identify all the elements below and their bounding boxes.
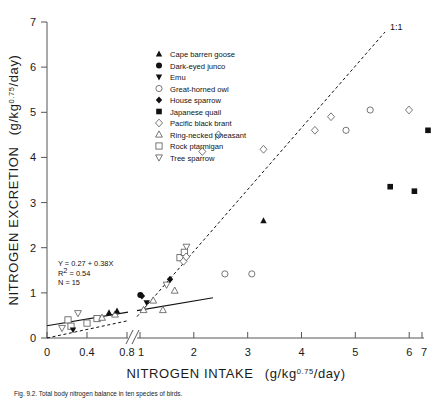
series-cape-barren-goose xyxy=(106,217,267,315)
marker-diamond-open-icon xyxy=(156,119,163,127)
x-axis-title-main: NITROGEN INTAKE xyxy=(126,366,253,381)
legend-item-dark-eyed-junco: Dark-eyed junco xyxy=(156,62,225,71)
x-tick-6: 6 xyxy=(406,346,412,358)
marker-diamond-filled-icon xyxy=(156,96,162,103)
x-tick-0p8: 0.8 xyxy=(119,346,134,358)
legend-item-house-sparrow: House sparrow xyxy=(156,96,222,105)
marker-square-open-icon xyxy=(156,143,162,149)
series-emu xyxy=(70,300,150,333)
y-axis-title: NITROGEN EXCRETION (g/kg0.75/day) xyxy=(6,55,21,306)
y-tick-5: 5 xyxy=(30,106,36,118)
x-tick-3: 3 xyxy=(245,346,251,358)
legend-label-9: Tree sparrow xyxy=(170,154,215,163)
marker-triangle-up-open-icon xyxy=(156,131,163,137)
x-axis-units-post: /day) xyxy=(314,366,346,381)
x-tick-2: 2 xyxy=(191,346,197,358)
figure-container: 0 1 2 3 4 5 6 7 0 0.4 0.8 1 xyxy=(0,0,446,400)
y-axis-units-pre: (g/kg xyxy=(6,103,21,135)
legend-item-cape-barren-goose: Cape barren goose xyxy=(156,50,235,59)
marker-square-filled-icon xyxy=(156,109,162,115)
legend-item-rock-ptarmigan: Rock ptarmigan xyxy=(156,142,223,151)
marker-triangle-down-open-icon xyxy=(156,155,163,161)
scatter-plot: 0 1 2 3 4 5 6 7 0 0.4 0.8 1 xyxy=(0,0,446,400)
x-axis-units-exponent: 0.75 xyxy=(297,367,314,376)
marker-circle-filled-icon xyxy=(156,63,162,69)
regression-n: N = 15 xyxy=(58,278,80,287)
x-tick-4: 4 xyxy=(298,346,304,358)
x-tick-5: 5 xyxy=(352,346,358,358)
regression-annotation: Y = 0.27 + 0.38X R2 = 0.54 N = 15 xyxy=(58,259,113,287)
regression-line xyxy=(47,298,213,326)
legend-label-0: Cape barren goose xyxy=(170,50,235,59)
legend-label-5: Japanese quail xyxy=(170,108,221,117)
x-axis-title: NITROGEN INTAKE (g/kg0.75/day) xyxy=(126,366,345,381)
legend: Cape barren goose Dark-eyed junco Emu Gr… xyxy=(156,50,247,163)
x-tick-0: 0 xyxy=(44,346,50,358)
legend-label-1: Dark-eyed junco xyxy=(170,62,225,71)
y-tick-1: 1 xyxy=(30,287,36,299)
x-tick-7: 7 xyxy=(421,346,427,358)
one-to-one-line xyxy=(47,32,385,338)
axis-break-marks xyxy=(126,330,139,344)
series-house-sparrow xyxy=(139,276,174,300)
y-axis-units-exponent: 0.75 xyxy=(7,86,16,103)
y-tick-3: 3 xyxy=(30,197,36,209)
x-axis-units-pre: (g/kg xyxy=(265,366,297,381)
legend-label-2: Emu xyxy=(170,73,186,82)
legend-label-6: Pacific black brant xyxy=(170,119,233,128)
y-axis: 0 1 2 3 4 5 6 7 xyxy=(30,16,47,344)
legend-label-7: Ring-necked pheasant xyxy=(170,131,247,140)
y-tick-4: 4 xyxy=(30,151,36,163)
figure-caption: Fig. 9.2. Total body nitrogen balance in… xyxy=(14,390,182,398)
one-to-one-label: 1:1 xyxy=(390,22,403,32)
y-tick-0: 0 xyxy=(30,332,36,344)
marker-circle-open-icon xyxy=(156,85,162,91)
y-tick-2: 2 xyxy=(30,242,36,254)
legend-label-3: Great-horned owl xyxy=(170,85,229,94)
series-tree-sparrow xyxy=(59,244,190,331)
legend-label-8: Rock ptarmigan xyxy=(170,142,223,151)
legend-item-emu: Emu xyxy=(156,73,186,82)
series-japanese-quail xyxy=(387,128,430,195)
y-tick-6: 6 xyxy=(30,61,36,73)
legend-item-tree-sparrow: Tree sparrow xyxy=(156,154,215,163)
legend-item-ring-necked-pheasant: Ring-necked pheasant xyxy=(156,131,247,140)
marker-triangle-down-filled-icon xyxy=(156,75,162,81)
svg-text:NITROGEN EXCRETION (g/kg: NITROGEN EXCRETION (g/kg0.75/day) xyxy=(6,55,21,306)
x-tick-1: 1 xyxy=(138,346,144,358)
legend-label-4: House sparrow xyxy=(170,96,222,105)
y-axis-units-post: /day) xyxy=(6,55,21,87)
y-axis-title-main: NITROGEN EXCRETION xyxy=(6,147,21,306)
x-axis: 0 0.4 0.8 1 2 3 4 5 6 7 xyxy=(44,330,427,358)
marker-triangle-up-filled-icon xyxy=(156,51,162,57)
legend-item-japanese-quail: Japanese quail xyxy=(156,108,221,117)
x-tick-0p4: 0.4 xyxy=(79,346,94,358)
y-tick-7: 7 xyxy=(30,16,36,28)
legend-item-pacific-black-brant: Pacific black brant xyxy=(156,119,233,128)
legend-item-great-horned-owl: Great-horned owl xyxy=(156,85,229,94)
